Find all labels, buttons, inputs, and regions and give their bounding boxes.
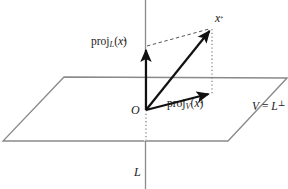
projection-diagram: projL(→x) projV(→x) →x O L V = L⊥ bbox=[0, 0, 288, 189]
label-proj-v-func: proj bbox=[167, 97, 186, 109]
label-plane-v: V = L⊥ bbox=[252, 101, 285, 113]
vector-arrow-accent: → bbox=[194, 96, 199, 106]
label-x-vector-glyph: →x bbox=[215, 13, 220, 25]
vector-arrow-accent: → bbox=[215, 11, 220, 21]
label-proj-v: projV(→x) bbox=[167, 98, 203, 110]
label-proj-l: projL(→x) bbox=[91, 36, 127, 48]
label-origin: O bbox=[131, 104, 140, 116]
vector-arrow-accent: → bbox=[118, 34, 123, 44]
diagram-canvas bbox=[0, 0, 288, 189]
label-line-l: L bbox=[134, 166, 141, 178]
label-proj-v-arg-vector: →x bbox=[194, 98, 199, 110]
label-x-vector: →x bbox=[215, 13, 220, 25]
perp-symbol-icon: ⊥ bbox=[278, 99, 286, 108]
label-proj-l-arg-vector: →x bbox=[118, 36, 123, 48]
label-plane-v-equals: = bbox=[259, 100, 271, 112]
label-proj-l-func: proj bbox=[91, 35, 110, 47]
label-plane-v-lhs: V bbox=[252, 100, 259, 112]
